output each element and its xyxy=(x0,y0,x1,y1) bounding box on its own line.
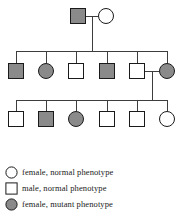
individual-II-1-male-mutant xyxy=(9,64,24,79)
individual-III-1-male-normal xyxy=(9,112,24,127)
legend-item-female-mutant: female, mutant phenotype xyxy=(0,196,183,212)
individual-III-2-male-mutant xyxy=(39,112,54,127)
legend-circle-filled-icon xyxy=(0,198,22,211)
legend-label-female-normal: female, normal phenotype xyxy=(22,167,113,177)
legend-label-male-normal: male, normal phenotype xyxy=(22,183,107,193)
individual-III-6-female-normal xyxy=(160,112,175,127)
legend-item-male-normal: male, normal phenotype xyxy=(0,180,183,196)
legend-item-female-normal: female, normal phenotype xyxy=(0,164,183,180)
individual-I-1-male-mutant xyxy=(71,9,86,24)
legend-square-open-icon xyxy=(0,182,22,195)
individual-II-6-female-mutant xyxy=(160,64,175,79)
individual-II-2-female-mutant xyxy=(39,64,54,79)
individual-II-3-male-normal xyxy=(69,64,84,79)
individual-III-4-male-normal xyxy=(100,112,115,127)
individual-I-2-female-normal xyxy=(99,9,114,24)
legend-label-female-mutant: female, mutant phenotype xyxy=(22,199,113,209)
individual-II-5-male-normal xyxy=(130,64,145,79)
individual-II-4-male-mutant xyxy=(100,64,115,79)
pedigree-figure: female, normal phenotype male, normal ph… xyxy=(0,0,183,217)
individual-III-5-male-normal xyxy=(130,112,145,127)
legend-circle-open-icon xyxy=(0,166,22,179)
pedigree-diagram xyxy=(0,0,183,164)
individual-III-3-female-mutant xyxy=(69,112,84,127)
legend: female, normal phenotype male, normal ph… xyxy=(0,164,183,212)
